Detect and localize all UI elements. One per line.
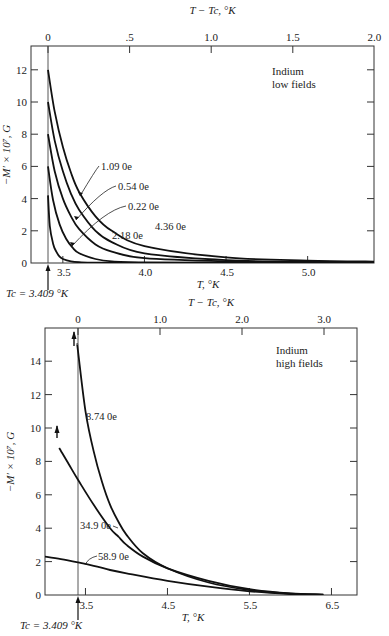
- curve-label: 0.22 0e: [128, 201, 159, 212]
- curve-label: 4.36 0e: [155, 221, 186, 232]
- top-axis-tick-label: .5: [125, 31, 134, 43]
- bottom-axis-tick-label: 4.5: [220, 266, 234, 278]
- data-series-curve: [48, 102, 381, 262]
- curve-label: 34.9 0e: [80, 520, 111, 531]
- curve-group: [45, 344, 324, 595]
- curve-label: 58.9 0e: [98, 551, 129, 562]
- left-axis-tick-label: 12: [30, 389, 41, 401]
- left-axis-title: −M′ × 10⁷, G: [4, 432, 16, 492]
- bottom-axis-title: T, °K: [197, 278, 220, 290]
- left-axis-title: −M′ × 10⁷, G: [0, 125, 12, 185]
- bottom-axis-tick-label: 5.5: [244, 599, 258, 611]
- chart-annotation-line: low fields: [272, 78, 316, 90]
- left-axis-tick-label: 2: [36, 556, 42, 568]
- left-axis-tick-label: 4: [22, 193, 28, 205]
- left-axis-tick-label: 10: [16, 96, 28, 108]
- curve-label-leader: [113, 526, 118, 528]
- tc-label: Tc = 3.409 °K: [6, 287, 69, 299]
- tc-arrow-icon: [46, 264, 51, 271]
- left-axis-tick-label: 10: [30, 422, 42, 434]
- left-axis-tick-label: 0: [36, 589, 42, 601]
- bottom-axis-tick-label: 6.5: [326, 599, 340, 611]
- bottom-axis-tick-label: 3.5: [57, 266, 71, 278]
- left-axis-tick-label: 12: [16, 64, 27, 76]
- left-axis-tick-label: 2: [22, 225, 28, 237]
- bottom-axis-title: T, °K: [182, 611, 205, 623]
- top-axis-tick-label: 0: [45, 31, 51, 43]
- figure-canvas: T − Tc, °K0.51.01.52.03.54.04.55.0T, °K0…: [0, 0, 389, 636]
- top-axis-tick-label: 0: [75, 313, 81, 325]
- data-series-curve: [48, 195, 381, 263]
- top-axis-tick-label: 1.0: [204, 31, 218, 43]
- curve-label: 0.54 0e: [118, 181, 149, 192]
- bottom-axis-tick-label: 5.0: [302, 266, 316, 278]
- bottom-axis-tick-label: 4.0: [139, 266, 153, 278]
- curve-label: 1.09 0e: [101, 161, 132, 172]
- data-series-curve: [48, 134, 381, 262]
- chart-annotation-line: Indium: [276, 344, 308, 356]
- chart-annotation-line: high fields: [276, 357, 323, 369]
- left-axis-tick-label: 14: [30, 355, 42, 367]
- curve-start-arrow-icon: [72, 331, 77, 339]
- tc-label: Tc = 3.409 °K: [20, 619, 83, 631]
- plot-frame: [31, 46, 374, 263]
- top-axis-tick-label: 2.0: [368, 31, 382, 43]
- top-axis-title: T − Tc, °K: [188, 296, 235, 308]
- data-series-curve: [48, 166, 381, 262]
- curve-label-leader: [80, 166, 99, 196]
- top-axis-tick-label: 1.5: [286, 31, 300, 43]
- left-axis-tick-label: 6: [36, 489, 42, 501]
- curve-group: [48, 70, 381, 263]
- left-axis-tick-label: 6: [22, 160, 28, 172]
- chart-annotation-line: Indium: [272, 65, 304, 77]
- bottom-axis-tick-label: 3.5: [80, 599, 94, 611]
- curve-label: 8.74 0e: [86, 411, 117, 422]
- top-axis-tick-label: 1.0: [153, 313, 167, 325]
- chart-indium-high-fields: T − Tc, °K01.02.03.03.54.55.56.5T, °K024…: [4, 296, 357, 631]
- bottom-axis-tick-label: 4.5: [162, 599, 176, 611]
- curve-start-arrow-icon: [55, 425, 60, 433]
- top-axis-tick-label: 3.0: [317, 313, 331, 325]
- top-axis-title: T − Tc, °K: [189, 4, 236, 16]
- left-axis-tick-label: 0: [22, 257, 28, 269]
- chart-indium-low-fields: T − Tc, °K0.51.01.52.03.54.04.55.0T, °K0…: [0, 4, 382, 299]
- curve-label: 2.18 0e: [112, 230, 143, 241]
- top-axis-tick-label: 2.0: [235, 313, 249, 325]
- left-axis-tick-label: 8: [36, 455, 42, 467]
- left-axis-tick-label: 8: [22, 128, 28, 140]
- left-axis-tick-label: 4: [36, 522, 42, 534]
